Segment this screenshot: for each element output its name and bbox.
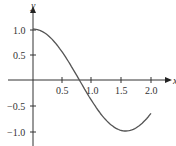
y-tick-label: 0.5 [13,50,26,61]
x-tick-label: 0.5 [56,85,69,96]
x-tick-label: 1.5 [115,85,128,96]
y-tick-label: −0.5 [7,101,25,112]
x-tick-label: 2.0 [145,85,158,96]
x-axis-arrow-icon [165,77,172,83]
y-tick-label: 1.0 [13,25,26,36]
x-axis-label: x [172,75,176,86]
y-tick-label: −1.0 [7,127,25,138]
function-plot: y x 0.5 1.0 1.5 2.0 1.0 0.5 −0.5 −1.0 [0,0,176,146]
y-axis-label: y [30,0,36,11]
